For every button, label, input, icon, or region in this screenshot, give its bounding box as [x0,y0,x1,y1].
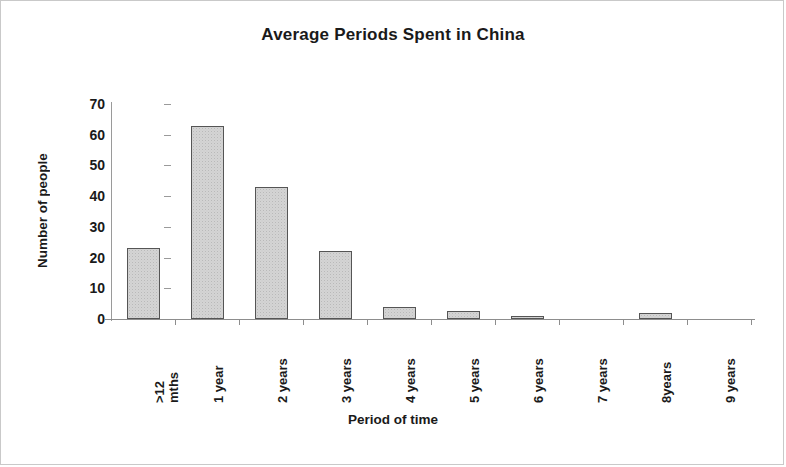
bar [191,126,224,320]
y-axis-tick-labels: 010203040506070 [59,1,105,467]
x-axis-tick-mark [559,319,560,325]
x-axis-tick-mark [303,319,304,325]
x-axis-category-label-line: 2 years [276,358,290,403]
x-axis-category-label: 1 year [212,365,226,403]
bar [383,307,416,319]
bar [511,316,544,319]
y-axis-tick-label: 50 [65,157,105,173]
x-axis-category-label-line: >12 [153,372,167,403]
bar [639,313,672,319]
x-axis-category-label: 8years [660,362,674,403]
x-axis-category-label: 5 years [468,358,482,403]
x-axis-category-label-line: 4 years [404,358,418,403]
y-axis-tick-label: 70 [65,96,105,112]
bar [447,311,480,319]
x-axis-category-label-line: 7 years [596,358,610,403]
x-axis-category-label-line: 9 years [724,358,738,403]
x-axis-category-label: 3 years [340,358,354,403]
x-axis-tick-mark [239,319,240,325]
x-axis-category-label: 4 years [404,358,418,403]
x-axis-tick-mark [431,319,432,325]
x-axis-tick-mark [367,319,368,325]
x-axis-category-label-line: 8years [660,362,674,403]
y-axis-tick-label: 60 [65,127,105,143]
x-axis-title: Period of time [1,412,785,427]
y-axis-tick-label: 30 [65,219,105,235]
bar [255,187,288,319]
x-axis-category-label: 2 years [276,358,290,403]
y-axis-tick-label: 10 [65,280,105,296]
y-axis-tick-label: 20 [65,250,105,266]
x-axis-tick-mark [175,319,176,325]
x-axis-category-label-line: 3 years [340,358,354,403]
x-axis-category-label-line: mths [167,372,181,403]
x-axis-tick-mark [495,319,496,325]
x-axis-category-label: 6 years [532,358,546,403]
bar [319,251,352,319]
y-axis-tick-label: 0 [65,311,105,327]
chart-title: Average Periods Spent in China [1,25,785,45]
x-axis-category-label-line: 5 years [468,358,482,403]
x-axis-tick-mark [623,319,624,325]
y-axis-title: Number of people [31,121,53,301]
x-axis-category-label-line: 6 years [532,358,546,403]
x-axis-line [105,319,755,320]
plot-area [111,104,751,319]
x-axis-tick-mark [687,319,688,325]
x-axis-tick-mark [751,319,752,325]
x-axis-category-label: 9 years [724,358,738,403]
bar [127,248,160,319]
x-axis-category-label: 7 years [596,358,610,403]
y-axis-tick-label: 40 [65,188,105,204]
chart-frame: Average Periods Spent in China Number of… [0,0,784,465]
x-axis-category-label-line: 1 year [212,365,226,403]
x-axis-category-label: >12mths [153,372,181,403]
